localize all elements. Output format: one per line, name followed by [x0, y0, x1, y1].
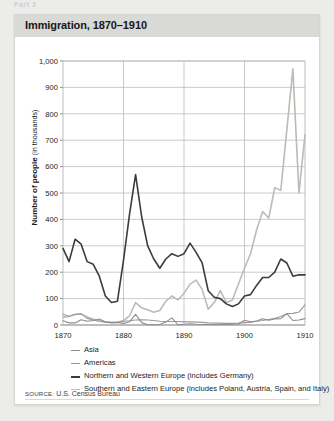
legend-swatch-icon — [71, 376, 80, 378]
legend-label: Asia — [84, 345, 99, 354]
y-axis-tick-label: 500 — [45, 189, 58, 198]
source-text: U.S. Census Bureau — [56, 390, 120, 397]
x-axis-tick-label: 1870 — [55, 331, 72, 340]
legend-label: Northern and Western Europe (includes Ge… — [84, 371, 254, 380]
y-axis-tick-label: 200 — [45, 268, 58, 277]
legend-item: Asia — [15, 345, 321, 358]
x-axis-tick-label: 1880 — [115, 331, 132, 340]
page-header-cutoff: Part 3 — [14, 1, 36, 8]
legend-swatch-icon — [71, 363, 80, 364]
page-background: Part 3 Immigration, 1870–1910 Number of … — [0, 0, 334, 421]
y-axis-tick-label: 900 — [45, 83, 58, 92]
legend-label: Southern and Eastern Europe (includes Po… — [84, 384, 329, 393]
y-axis-tick-label: 0 — [54, 321, 58, 330]
y-axis-tick-label: 700 — [45, 136, 58, 145]
legend-item: Northern and Western Europe (includes Ge… — [15, 371, 321, 384]
footer-divider — [25, 399, 309, 400]
y-axis-tick-label: 300 — [45, 242, 58, 251]
plot-area: Number of people (in thousands) 01002003… — [15, 37, 321, 347]
y-axis-tick-label: 800 — [45, 110, 58, 119]
chart-title: Immigration, 1870–1910 — [25, 19, 147, 31]
y-axis-tick-label: 600 — [45, 162, 58, 171]
legend-label: Americas — [84, 358, 116, 367]
y-axis-tick-label: 400 — [45, 215, 58, 224]
x-axis-tick-label: 1900 — [236, 331, 253, 340]
y-axis-tick-label: 100 — [45, 294, 58, 303]
legend-item: Americas — [15, 358, 321, 371]
legend-swatch-icon — [71, 350, 80, 351]
chart-title-bar: Immigration, 1870–1910 — [15, 15, 319, 37]
chart-source: SOURCE: U.S. Census Bureau — [25, 390, 120, 397]
immigration-line-chart: 01002003004005006007008009001,0001870188… — [15, 37, 321, 347]
x-axis-tick-label: 1890 — [176, 331, 193, 340]
x-axis-tick-label: 1910 — [297, 331, 314, 340]
y-axis-tick-label: 1,000 — [39, 57, 58, 66]
source-prefix: SOURCE: — [25, 390, 54, 397]
chart-card: Immigration, 1870–1910 Number of people … — [14, 14, 320, 405]
